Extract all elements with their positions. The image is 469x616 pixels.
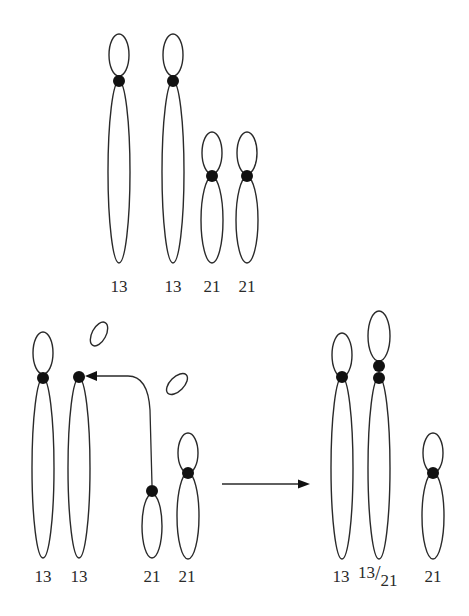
chromosome-13 [331, 333, 353, 559]
centromere-icon [73, 371, 85, 383]
chromosome-label: 21 [204, 277, 221, 296]
arrowhead-icon [298, 480, 310, 489]
fused-chromosome-label: 13/21 [358, 562, 398, 590]
chromosome-label: 13 [111, 277, 128, 296]
chromosome-label: 13 [333, 567, 350, 586]
chromosome-13-21-fused [368, 311, 390, 559]
p-arm [109, 34, 129, 76]
q-arm [331, 377, 353, 559]
centromere-icon [37, 372, 49, 384]
chromosome-13 [162, 34, 184, 263]
chromosome-label: 21 [239, 277, 256, 296]
centromere-icon [336, 371, 348, 383]
q-arm [162, 81, 184, 263]
q-arm-13 [368, 377, 390, 559]
fused-label-13: 13 [358, 563, 375, 582]
chromosome-21 [177, 433, 199, 559]
q-arm [177, 473, 199, 559]
q-arm [422, 473, 444, 559]
centromere-icon [373, 360, 385, 372]
q-arm [68, 378, 90, 558]
q-arm [108, 81, 130, 263]
fusion-arrow [85, 371, 152, 485]
centromere-icon [113, 75, 125, 87]
q-arm [236, 177, 258, 263]
normal-karyotype-panel: 13 13 21 21 [108, 34, 258, 296]
lost-p-arm-fragment [87, 319, 112, 349]
chromosome-13-broken [68, 371, 90, 558]
process-arrow [222, 480, 310, 489]
chromosome-21 [201, 132, 223, 263]
p-arm-21 [368, 311, 390, 361]
p-arm [237, 132, 257, 174]
chromosome-label: 13 [165, 277, 182, 296]
centromere-icon [241, 170, 253, 182]
centromere-icon [167, 75, 179, 87]
q-arm [142, 494, 162, 558]
chromosome-label: 21 [425, 567, 442, 586]
centromere-icon [146, 485, 158, 497]
chromosome-21 [422, 433, 444, 559]
chromosome-13 [32, 332, 54, 558]
centromere-icon [182, 467, 194, 479]
translocation-diagram: 13 13 21 21 [0, 0, 469, 616]
arrowhead-icon [85, 371, 97, 381]
fusion-arrow-line [92, 376, 152, 485]
q-arm [201, 177, 223, 263]
fused-label-21: 21 [381, 571, 398, 590]
translocation-event-panel: 13 13 21 21 [32, 319, 199, 586]
result-karyotype-panel: 13 13/21 21 [331, 311, 444, 590]
chromosome-label: 13 [71, 567, 88, 586]
centromere-icon [373, 372, 385, 384]
q-arm [32, 378, 54, 558]
chromosome-label: 21 [144, 567, 161, 586]
p-arm [163, 34, 183, 76]
chromosome-label: 13 [35, 567, 52, 586]
chromosome-13 [108, 34, 130, 263]
centromere-icon [206, 170, 218, 182]
chromosome-21-broken [142, 485, 162, 558]
p-arm [202, 132, 222, 174]
chromosome-21 [236, 132, 258, 263]
centromere-icon [427, 467, 439, 479]
p-arm [33, 332, 53, 374]
lost-p-arm-fragment [163, 370, 191, 398]
p-arm [332, 333, 352, 377]
chromosome-label: 21 [179, 567, 196, 586]
